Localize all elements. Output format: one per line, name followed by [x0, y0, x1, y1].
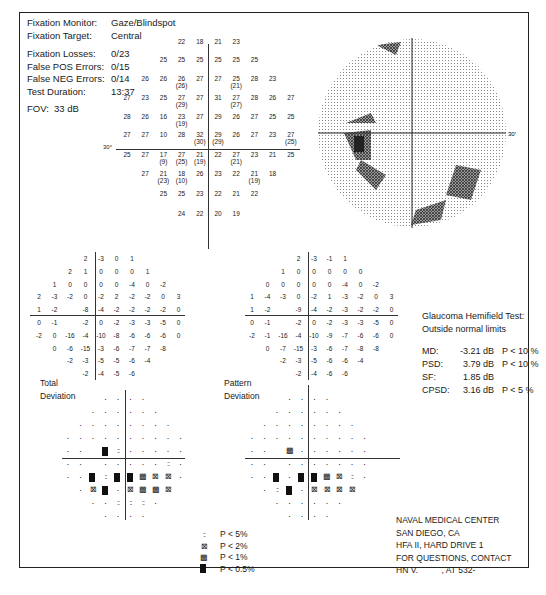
deviation-value: -3: [276, 293, 290, 300]
threshold-value: 31: [209, 94, 227, 101]
threshold-value: 27: [245, 131, 263, 138]
deviation-value: 0: [48, 345, 62, 352]
deviation-value: -8: [79, 306, 93, 313]
probability-symbol-dot: [323, 395, 331, 403]
probability-symbol-p05: [311, 473, 317, 482]
probability-symbol-p1: [139, 486, 147, 494]
threshold-value: 22: [191, 210, 209, 217]
deviation-value: -2: [141, 306, 155, 313]
probability-symbol-dot: [273, 434, 281, 442]
probability-symbol-p5: [273, 486, 281, 494]
probability-symbol-dot: [361, 447, 369, 455]
false-pos-label: False POS Errors:: [27, 61, 111, 74]
threshold-value: 26: [227, 131, 245, 138]
probability-symbol-dot: [77, 421, 85, 429]
pd-label-line1: Pattern: [224, 377, 259, 390]
deviation-value: -3: [48, 293, 62, 300]
probability-symbol-dot: [248, 447, 256, 455]
probability-symbol-p5: [348, 473, 356, 481]
ght-label: Glaucoma Hemifield Test:: [422, 310, 539, 323]
probability-symbol-dot: [77, 447, 85, 455]
probability-symbol-dot: [298, 421, 306, 429]
threshold-value: 25: [154, 94, 172, 101]
probability-symbol-p05: [102, 447, 108, 456]
probability-symbol-dot: [127, 408, 135, 416]
probability-symbol-dot: [311, 408, 319, 416]
deviation-value: 0: [354, 281, 368, 288]
deviation-value: 0: [307, 319, 321, 326]
md-label: MD:: [422, 345, 448, 358]
deviation-value: -6: [323, 370, 337, 377]
threshold-value: 27: [245, 113, 263, 120]
deviation-value: -4: [94, 370, 108, 377]
probability-symbol-dot: [323, 499, 331, 507]
deviation-value: -4: [94, 306, 108, 313]
probability-symbol-dot: [248, 473, 256, 481]
deviation-value: -8: [369, 345, 383, 352]
probability-symbol-p05: [298, 473, 304, 482]
fixation-monitor-label: Fixation Monitor:: [27, 17, 111, 30]
threshold-value: 25: [282, 113, 300, 120]
probability-symbol-p2: [164, 486, 172, 494]
deviation-value: 0: [385, 319, 399, 326]
deviation-value: -3: [94, 345, 108, 352]
deviation-value: -5: [156, 319, 170, 326]
td-label-line2: Deviation: [40, 390, 75, 403]
probability-symbol-dot: [298, 512, 306, 520]
pd-num-horizontal-axis: [245, 315, 398, 316]
footer-line5: HN V. , AT 532-: [396, 564, 512, 577]
threshold-axis-label-left: 30°: [103, 144, 112, 150]
td-label-line1: Total: [40, 377, 75, 390]
threshold-value: 26(26): [173, 75, 191, 89]
deviation-value: -2: [323, 319, 337, 326]
threshold-value: 18: [264, 170, 282, 177]
threshold-value: 23: [245, 151, 263, 158]
legend-item: P < 1%: [200, 552, 255, 564]
fixation-losses-label: Fixation Losses:: [27, 48, 111, 61]
probability-symbol-dot: [298, 447, 306, 455]
probability-symbol-p2: [89, 486, 97, 494]
threshold-value: 27: [118, 131, 136, 138]
probability-symbol-dot: [102, 512, 110, 520]
deviation-value: -3: [338, 293, 352, 300]
legend-item: P < 2%: [200, 541, 255, 553]
pd-num-vertical-axis: [308, 252, 309, 380]
threshold-value: 23: [264, 131, 282, 138]
footer-line4: FOR QUESTIONS, CONTACT: [396, 552, 512, 565]
probability-symbol-p1: [323, 473, 331, 481]
threshold-value: 26: [136, 113, 154, 120]
cpsd-label: CPSD:: [422, 384, 448, 397]
threshold-value: 27: [136, 131, 154, 138]
probability-symbol-dot: [348, 447, 356, 455]
deviation-value: 0: [276, 281, 290, 288]
probability-symbol-dot: [298, 434, 306, 442]
probability-symbol-dot: [114, 512, 122, 520]
threshold-value: 23: [191, 190, 209, 197]
probability-symbol-dot: [286, 499, 294, 507]
probability-symbol-dot: [261, 447, 269, 455]
deviation-value: 0: [156, 293, 170, 300]
probability-symbol-dot: [139, 512, 147, 520]
deviation-value: -8: [156, 345, 170, 352]
probability-symbol-dot: [311, 421, 319, 429]
deviation-value: -2: [125, 293, 139, 300]
probability-symbol-dot: [164, 421, 172, 429]
cpsd-p: P < 5 %: [502, 384, 534, 397]
deviation-value: 0: [125, 268, 139, 275]
psd-p: P < 10 %: [502, 358, 539, 371]
td-num-vertical-axis: [95, 252, 96, 380]
deviation-value: -2: [125, 306, 139, 313]
deviation-value: -2: [323, 306, 337, 313]
probability-symbol-dot: [248, 460, 256, 468]
probability-symbol-dot: [298, 486, 306, 494]
legend-label: P < 5%: [220, 529, 248, 541]
deviation-value: -6: [323, 345, 337, 352]
threshold-value: 21: [264, 151, 282, 158]
probability-symbol-p5: [127, 499, 135, 507]
deviation-value: 1: [245, 306, 259, 313]
deviation-value: 0: [385, 306, 399, 313]
deviation-value: -2: [276, 357, 290, 364]
deviation-value: 0: [245, 319, 259, 326]
probability-symbol-dot: [177, 447, 185, 455]
probability-symbol-dot: [114, 395, 122, 403]
